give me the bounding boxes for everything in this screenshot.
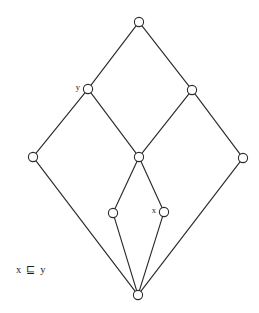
node-label-x: x [152,205,157,215]
edge-y-center [91,93,136,154]
node-circle-center[interactable] [134,152,143,161]
caption-layer: x ⊑ y [16,264,47,275]
node-circle-right[interactable] [238,153,247,162]
node-layer: yx [28,17,247,299]
hasse-diagram-canvas: yx x ⊑ y [0,0,259,313]
node-circle-x[interactable] [159,207,168,216]
edge-right-bottom [141,162,240,292]
node-x[interactable]: x [152,205,169,217]
node-ur[interactable] [187,85,196,94]
node-right[interactable] [238,153,247,162]
edge-center-x [141,161,162,208]
node-circle-lowmid[interactable] [108,208,117,217]
node-circle-ur[interactable] [187,85,196,94]
edge-lowmid-bottom [114,217,136,290]
node-left[interactable] [28,152,37,161]
node-circle-bottom[interactable] [133,290,142,299]
node-circle-left[interactable] [28,152,37,161]
edge-y-left [36,93,85,154]
node-top[interactable] [134,17,143,26]
node-circle-top[interactable] [134,17,143,26]
edge-x-bottom [139,216,162,290]
relation-caption: x ⊑ y [16,264,47,275]
edge-ur-right [195,94,240,155]
node-center[interactable] [134,152,143,161]
edge-top-ur [142,26,189,87]
edge-center-lowmid [115,161,137,209]
edge-left-bottom [36,161,135,292]
node-label-y: y [76,82,81,92]
node-y[interactable]: y [76,82,93,94]
edge-ur-center [142,94,189,154]
node-circle-y[interactable] [83,84,92,93]
hasse-diagram-figure: yx x ⊑ y [0,0,259,313]
node-bottom[interactable] [133,290,142,299]
node-lowmid[interactable] [108,208,117,217]
edge-top-y [91,26,136,86]
